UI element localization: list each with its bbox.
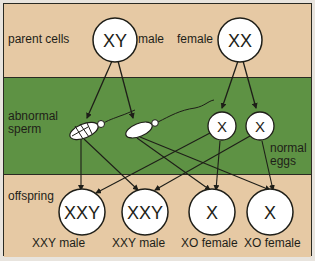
offspring-cell-3: X <box>189 189 235 235</box>
parent-arrows <box>87 61 256 118</box>
svg-text:XXY: XXY <box>64 203 100 223</box>
svg-text:XX: XX <box>228 31 252 51</box>
offspring-arrows <box>81 133 273 193</box>
svg-text:XXY: XXY <box>127 203 163 223</box>
egg-1: X <box>208 112 236 140</box>
offspring-cell-1: XXY <box>59 189 105 235</box>
offspring-cell-2: XXY <box>122 189 168 235</box>
svg-text:X: X <box>206 203 218 223</box>
abnormal-sperm-1 <box>67 110 135 143</box>
svg-text:X: X <box>255 118 265 135</box>
offspring-cell-4: X <box>247 189 293 235</box>
female-parent-cell: XX <box>218 18 262 62</box>
male-parent-cell: XY <box>93 18 137 62</box>
svg-text:XY: XY <box>103 31 127 51</box>
abnormal-sperm-2 <box>124 100 214 141</box>
svg-text:X: X <box>217 118 227 135</box>
svg-text:X: X <box>264 203 276 223</box>
egg-2: X <box>246 112 274 140</box>
diagram-artwork: XY XX X X XXY XXY <box>0 0 315 261</box>
